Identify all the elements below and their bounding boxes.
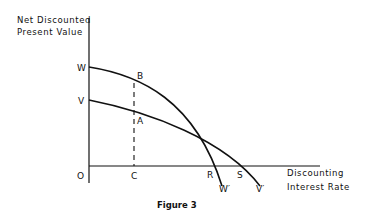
point-label-w-prime: W′	[219, 184, 230, 194]
curve-ww-prime	[89, 67, 222, 186]
npv-diagram: Net Discounted Present Value Discounting…	[0, 0, 370, 221]
point-label-c: C	[131, 171, 137, 181]
point-label-s: S	[237, 170, 243, 180]
x-axis-label-line1: Discounting	[287, 168, 344, 178]
point-label-w: W	[77, 63, 86, 73]
figure-caption: Figure 3	[157, 200, 197, 210]
point-label-v-prime: V′	[256, 184, 264, 194]
point-label-origin: O	[77, 171, 84, 181]
curve-vv-prime	[89, 100, 260, 186]
y-axis-label-line2: Present Value	[17, 27, 83, 37]
point-label-b: B	[137, 71, 143, 81]
point-label-a: A	[137, 116, 144, 126]
point-label-v: V	[78, 96, 85, 106]
y-axis-label-line1: Net Discounted	[17, 15, 91, 25]
point-label-r: R	[207, 170, 213, 180]
x-axis-label-line2: Interest Rate	[287, 182, 350, 192]
